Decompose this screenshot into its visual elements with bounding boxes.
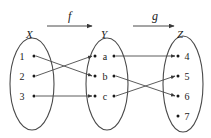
- element-label-1: 1: [20, 51, 25, 62]
- element-label-2: 2: [20, 71, 25, 82]
- set-ellipse-x: [10, 38, 54, 130]
- nodes-z: 4 5 6 7: [177, 51, 190, 122]
- nodes-x: 1 2 3: [20, 51, 36, 102]
- node-dot-c-out: [113, 95, 116, 98]
- map-label-g: g: [152, 9, 158, 23]
- node-dot-a-out: [113, 55, 116, 58]
- element-label-3: 3: [20, 91, 25, 102]
- node-dot-1: [33, 55, 36, 58]
- element-label-5: 5: [185, 71, 190, 82]
- nodes-y: a b c: [94, 51, 116, 102]
- map-arrows: f g: [47, 9, 174, 26]
- set-label-x: X: [25, 28, 34, 40]
- node-dot-b-in: [94, 75, 97, 78]
- element-label-c: c: [103, 91, 108, 102]
- set-labels: X Y Z: [25, 28, 184, 40]
- node-dot-3: [33, 95, 36, 98]
- set-label-z: Z: [177, 28, 184, 40]
- node-dot-b-out: [113, 75, 116, 78]
- node-dot-4: [177, 55, 180, 58]
- node-dot-6: [177, 95, 180, 98]
- node-dot-c-in: [94, 95, 97, 98]
- set-ellipse-z: [163, 36, 203, 132]
- diagram-canvas: X Y Z f g 1 2 3: [0, 0, 211, 138]
- element-label-a: a: [103, 51, 108, 62]
- node-dot-5: [177, 75, 180, 78]
- element-label-4: 4: [185, 51, 190, 62]
- edges-g: [116, 56, 175, 96]
- element-label-b: b: [103, 71, 108, 82]
- node-dot-a-in: [94, 55, 97, 58]
- node-dot-2: [33, 75, 36, 78]
- element-label-7: 7: [185, 111, 190, 122]
- edges-f: [36, 56, 92, 96]
- map-label-f: f: [68, 9, 73, 23]
- function-composition-diagram: X Y Z f g 1 2 3: [0, 0, 211, 138]
- element-label-6: 6: [185, 91, 190, 102]
- node-dot-7: [177, 115, 180, 118]
